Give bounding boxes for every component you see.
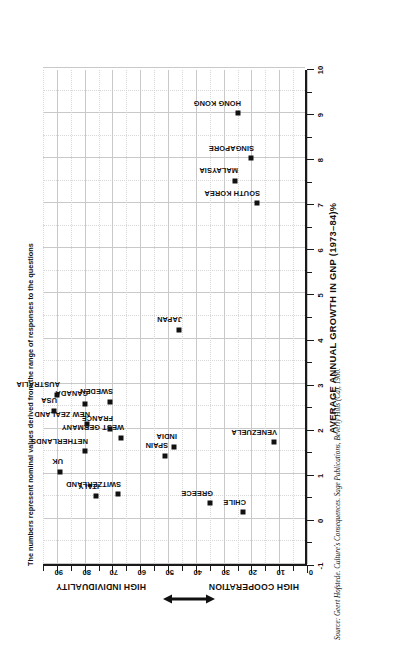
y-axis-tick-label: 50 [166, 568, 174, 577]
y-axis-tick-minor [293, 566, 294, 571]
data-point-marker[interactable] [232, 178, 237, 183]
x-axis-tick-minor [307, 92, 312, 93]
x-axis-tick-minor [307, 407, 312, 408]
x-axis-tick [307, 520, 314, 521]
data-point-marker[interactable] [85, 422, 90, 427]
x-axis-tick-label: 5 [316, 293, 325, 297]
data-point-label: JAPAN [157, 315, 182, 324]
gridline-horizontal [293, 70, 294, 564]
x-axis-tick-minor [307, 137, 312, 138]
data-point-label: AUSTRALIA [16, 380, 60, 389]
data-point-marker[interactable] [107, 426, 112, 431]
y-axis-tick-minor [126, 566, 127, 571]
gridline-horizontal [265, 70, 266, 564]
y-axis-tick-label: 20 [249, 568, 257, 577]
x-axis-tick [307, 340, 314, 341]
data-point-label: HONG KONG [193, 99, 240, 108]
gridline-horizontal [126, 70, 127, 564]
x-axis-tick-label: 10 [316, 66, 325, 74]
data-point-label: SPAIN [146, 441, 169, 450]
x-axis-tick-minor [307, 497, 312, 498]
y-axis-tick-label: 70 [110, 568, 118, 577]
data-point-label: UK [52, 457, 63, 466]
data-point-marker[interactable] [93, 494, 98, 499]
y-axis-tick-minor [182, 566, 183, 571]
double-arrow-icon [163, 594, 215, 604]
y-axis-tick-minor [265, 566, 266, 571]
gridline-horizontal [279, 70, 280, 564]
x-axis-tick [307, 204, 314, 205]
y-axis-tick-label: 80 [82, 568, 90, 577]
data-point-marker[interactable] [271, 440, 276, 445]
data-point-marker[interactable] [254, 201, 259, 206]
y-axis-caption-individuality: HIGH INDIVIDUALITY [56, 582, 146, 592]
x-axis-tick [307, 294, 314, 295]
x-axis-tick [307, 159, 314, 160]
x-axis-tick [307, 114, 314, 115]
data-point-marker[interactable] [57, 469, 62, 474]
x-axis-tick-label: 6 [316, 248, 325, 252]
x-axis-tick [307, 565, 314, 566]
data-point-label: INDIA [156, 432, 177, 441]
x-axis-tick-minor [307, 452, 312, 453]
x-axis-tick-label: 4 [316, 338, 325, 342]
y-axis-tick-label: 40 [193, 568, 201, 577]
data-point-marker[interactable] [177, 327, 182, 332]
x-axis-tick-label: 2 [316, 429, 325, 433]
data-point-marker[interactable] [163, 453, 168, 458]
plot-area: VENEZUELACHILEGREECESINGAPOREHONG KONGSO… [43, 70, 307, 566]
x-axis-tick-label: 9 [316, 113, 325, 117]
data-point-label: CANADA [55, 389, 88, 398]
source-citation: Source: Geert Hofstede. Culture's Conseq… [334, 368, 342, 640]
gridline-horizontal [43, 70, 44, 564]
x-axis-tick-label: 0 [316, 519, 325, 523]
data-point-label: NETHERLANDS [31, 437, 88, 446]
gridline-horizontal [154, 70, 155, 564]
data-point-marker[interactable] [235, 111, 240, 116]
gridline-horizontal [57, 70, 58, 564]
y-axis-tick-minor [99, 566, 100, 571]
chart-stage: The numbers represent nominal values der… [25, 22, 373, 622]
x-axis-tick-label: 1 [316, 474, 325, 478]
data-point-marker[interactable] [82, 401, 87, 406]
data-point-label: SINGAPORE [209, 144, 254, 153]
data-point-marker[interactable] [116, 492, 121, 497]
x-axis-tick-minor [307, 362, 312, 363]
y-axis-tick-minor [238, 566, 239, 571]
x-axis-tick-label: 8 [316, 158, 325, 162]
x-axis-tick-label: 7 [316, 203, 325, 207]
data-point-marker[interactable] [171, 444, 176, 449]
y-axis-tick-minor [43, 566, 44, 571]
data-point-label: SOUTH KOREA [204, 189, 260, 198]
data-point-label: WEST GERMANY [61, 423, 123, 432]
data-point-label: CHILE [223, 498, 246, 507]
gridline-horizontal [71, 70, 72, 564]
y-axis-tick-minor [210, 566, 211, 571]
x-axis-tick-minor [307, 542, 312, 543]
x-axis-tick-minor [307, 317, 312, 318]
x-axis-tick [307, 69, 314, 70]
y-axis-tick-minor [71, 566, 72, 571]
x-axis-tick-label: 3 [316, 384, 325, 388]
x-axis-tick [307, 385, 314, 386]
x-axis-tick-label: -1 [316, 563, 325, 570]
chart-note: The numbers represent nominal values der… [26, 66, 35, 566]
data-point-marker[interactable] [118, 435, 123, 440]
data-point-label: ITALY [78, 482, 99, 491]
data-point-label: MALAYSIA [199, 166, 238, 175]
x-axis-tick-minor [307, 227, 312, 228]
data-point-marker[interactable] [241, 510, 246, 515]
gridline-horizontal [112, 70, 113, 564]
data-point-marker[interactable] [249, 156, 254, 161]
data-point-marker[interactable] [207, 501, 212, 506]
data-point-marker[interactable] [52, 408, 57, 413]
y-axis-tick-label: 10 [277, 568, 285, 577]
data-point-marker[interactable] [107, 399, 112, 404]
x-axis-tick [307, 475, 314, 476]
data-point-label: USA [41, 396, 57, 405]
data-point-label: GREECE [181, 489, 213, 498]
x-axis-tick [307, 430, 314, 431]
x-axis-tick-minor [307, 272, 312, 273]
y-axis-tick-label: 0 [309, 568, 313, 577]
data-point-marker[interactable] [82, 449, 87, 454]
